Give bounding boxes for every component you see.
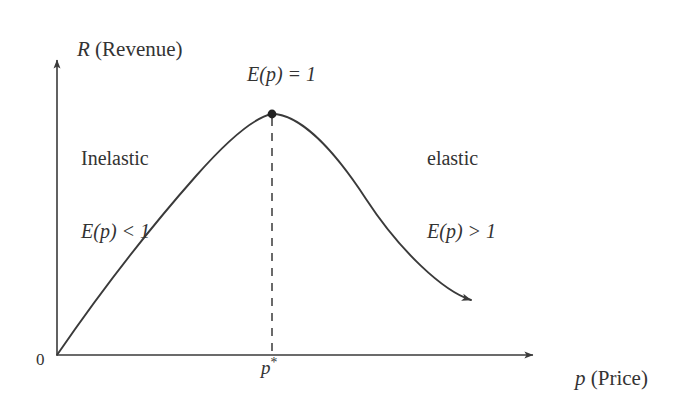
elastic-region-condition: E(p) > 1	[427, 220, 496, 244]
y-axis-title-symbol: R	[77, 37, 90, 61]
inelastic-region-annotation: Inelastic E(p) < 1	[81, 100, 150, 291]
peak-marker-dot	[268, 110, 277, 119]
origin-label: 0	[36, 350, 45, 370]
elastic-region-annotation: elastic E(p) > 1	[427, 100, 496, 291]
y-axis-title-text: (Revenue)	[90, 37, 183, 61]
pstar-superscript: *	[271, 355, 278, 370]
inelastic-region-condition: E(p) < 1	[81, 220, 150, 244]
y-axis-title: R (Revenue)	[56, 12, 183, 86]
peak-annotation: E(p) = 1	[247, 63, 316, 87]
revenue-elasticity-figure: R (Revenue) p (Price) 0 p* E(p) = 1 Inel…	[0, 0, 678, 393]
pstar-tick-label: p*	[261, 355, 277, 380]
x-axis-title-symbol: p	[575, 366, 586, 390]
pstar-base: p	[261, 357, 271, 378]
elastic-region-name: elastic	[427, 147, 496, 171]
x-axis-title: p (Price)	[554, 341, 648, 393]
inelastic-region-name: Inelastic	[81, 147, 150, 171]
x-axis-title-text: (Price)	[586, 366, 648, 390]
